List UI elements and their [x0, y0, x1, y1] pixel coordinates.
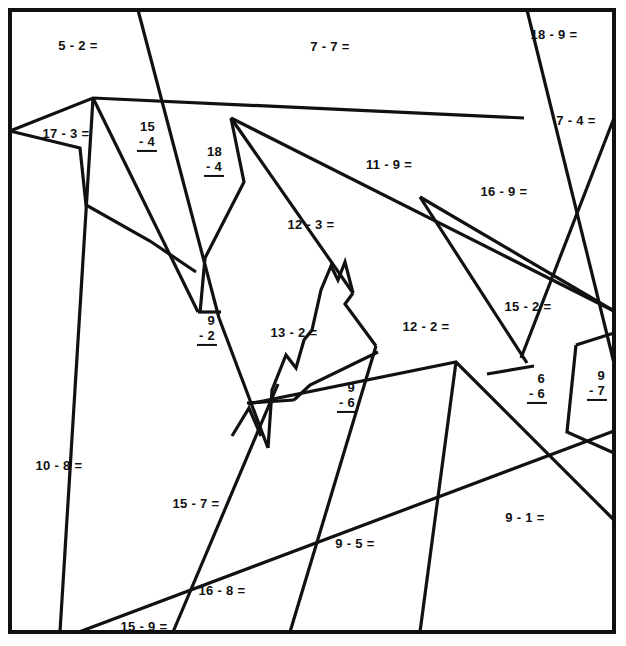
problem-p09: 16 - 9 =	[481, 185, 528, 200]
problem-p06: 18- 4	[204, 145, 224, 177]
problem-p21: 9 - 5 =	[335, 537, 374, 552]
problem-p08: 11 - 9 =	[366, 158, 412, 173]
problem-p22: 16 - 8 =	[199, 584, 246, 599]
problem-subtrahend: - 2	[197, 329, 217, 347]
problem-subtrahend: - 4	[137, 135, 157, 153]
problem-p20: 9 - 1 =	[505, 511, 544, 526]
problem-p02: 7 - 7 =	[310, 40, 349, 55]
problem-minuend: 9	[587, 369, 607, 384]
problem-subtrahend: - 7	[587, 384, 607, 402]
worksheet-canvas: 5 - 2 =7 - 7 =18 - 9 =17 - 3 =15- 418- 4…	[0, 0, 626, 646]
problem-p13: 13 - 2 =	[271, 326, 318, 341]
problem-subtrahend: - 4	[204, 160, 224, 178]
problem-minuend: 18	[204, 145, 224, 160]
problem-subtrahend: - 6	[527, 387, 547, 405]
problem-p17: 9- 6	[337, 381, 357, 413]
problem-subtrahend: - 6	[337, 396, 357, 414]
problem-minuend: 15	[137, 120, 157, 135]
problem-p15: 6- 6	[527, 372, 547, 404]
problem-p07: 7 - 4 =	[556, 114, 595, 129]
problem-p12: 9- 2	[197, 314, 217, 346]
problem-minuend: 9	[197, 314, 217, 329]
problem-p14: 12 - 2 =	[403, 320, 450, 335]
problem-p19: 15 - 7 =	[173, 497, 220, 512]
problem-p16: 9- 7	[587, 369, 607, 401]
problem-minuend: 6	[527, 372, 547, 387]
problem-p01: 5 - 2 =	[58, 39, 97, 54]
problem-p11: 15 - 2 =	[505, 300, 552, 315]
problem-p03: 18 - 9 =	[531, 28, 578, 43]
problem-p10: 12 - 3 =	[288, 218, 335, 233]
puzzle-line-art	[0, 0, 626, 646]
problem-minuend: 9	[337, 381, 357, 396]
problem-p18: 10 - 8 =	[36, 459, 83, 474]
problem-p23: 15 - 9 =	[121, 620, 168, 635]
problem-p05: 15- 4	[137, 120, 157, 152]
problem-p04: 17 - 3 =	[43, 127, 90, 142]
